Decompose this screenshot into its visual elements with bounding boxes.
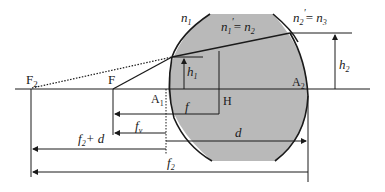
label-F: F (108, 72, 115, 87)
label-n1-prime-eq-n2: n1′= n2 (221, 16, 255, 36)
label-H: H (223, 94, 232, 108)
label-h2: h2 (339, 57, 350, 74)
label-n2-prime-eq-n3: n2′= n3 (293, 7, 327, 27)
thick-lens-diagram: F2 F A1 A2 H n1 n1′= n2 n2′= n3 h1 h2 f … (0, 0, 385, 192)
label-f2: f2 (167, 155, 175, 172)
label-f2-plus-d: f2+ d (78, 131, 105, 148)
ray-dotted-extension (32, 57, 172, 88)
label-A1: A1 (151, 92, 164, 108)
ray-incident (113, 57, 172, 89)
label-fv: fv (135, 118, 143, 135)
label-F2: F2 (26, 72, 38, 89)
label-d: d (235, 125, 242, 140)
label-n1: n1 (181, 10, 192, 27)
